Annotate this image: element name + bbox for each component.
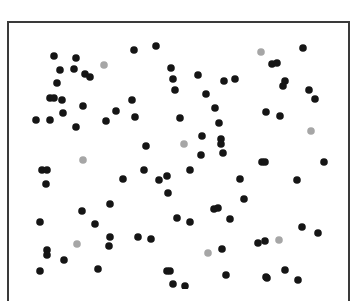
black-dot <box>46 116 54 124</box>
black-dot <box>60 256 68 264</box>
black-dot <box>202 90 210 98</box>
black-dot <box>226 215 234 223</box>
black-dot <box>163 172 171 180</box>
black-dot <box>58 96 66 104</box>
black-dot <box>128 96 136 104</box>
black-dot <box>236 175 244 183</box>
black-dot <box>311 95 319 103</box>
black-dot <box>276 112 284 120</box>
black-dot <box>293 176 301 184</box>
black-dot <box>281 266 289 274</box>
gray-dot <box>275 236 283 244</box>
black-dot <box>36 218 44 226</box>
black-dot <box>78 207 86 215</box>
black-dot <box>167 64 175 72</box>
black-dot <box>169 75 177 83</box>
black-dot <box>164 189 172 197</box>
black-dot <box>197 151 205 159</box>
black-dot <box>131 113 139 121</box>
black-dot <box>91 220 99 228</box>
black-dot <box>220 77 228 85</box>
black-dot <box>217 140 225 148</box>
black-dot <box>106 233 114 241</box>
black-dot <box>263 274 271 282</box>
black-dot <box>79 102 87 110</box>
black-dot <box>169 280 177 288</box>
black-dot <box>112 107 120 115</box>
black-dot <box>50 94 58 102</box>
black-dot <box>181 282 189 289</box>
black-dot <box>299 44 307 52</box>
gray-dot <box>257 48 265 56</box>
black-dot <box>222 271 230 279</box>
black-dot <box>214 204 222 212</box>
black-dot <box>105 242 113 250</box>
black-dot <box>70 65 78 73</box>
black-dot <box>273 59 281 67</box>
black-dot <box>218 245 226 253</box>
black-dot <box>72 54 80 62</box>
black-dot <box>106 200 114 208</box>
black-dot <box>53 79 61 87</box>
black-dot <box>147 235 155 243</box>
black-dot <box>119 175 127 183</box>
black-dot <box>142 142 150 150</box>
black-dot <box>152 42 160 50</box>
black-dot <box>59 109 67 117</box>
gray-dot <box>79 156 87 164</box>
black-dot <box>43 166 51 174</box>
black-dot <box>94 265 102 273</box>
black-dot <box>50 52 58 60</box>
black-dot <box>176 114 184 122</box>
black-dot <box>261 158 269 166</box>
gray-dot <box>100 61 108 69</box>
black-dot <box>130 46 138 54</box>
black-dot <box>240 195 248 203</box>
black-dot <box>42 180 50 188</box>
black-dot <box>219 149 227 157</box>
black-dot <box>43 251 51 259</box>
black-dot <box>261 237 269 245</box>
black-dot <box>72 123 80 131</box>
black-dot <box>211 104 219 112</box>
black-dot <box>102 117 110 125</box>
black-dot <box>215 119 223 127</box>
black-dot <box>36 267 44 275</box>
black-dot <box>314 229 322 237</box>
black-dot <box>198 132 206 140</box>
gray-dot <box>180 140 188 148</box>
black-dot <box>254 239 262 247</box>
black-dot <box>320 158 328 166</box>
gray-dot <box>204 249 212 257</box>
black-dot <box>173 214 181 222</box>
black-dot <box>166 267 174 275</box>
black-dot <box>186 166 194 174</box>
black-dot <box>305 86 313 94</box>
black-dot <box>186 218 194 226</box>
black-dot <box>194 71 202 79</box>
black-dot <box>155 176 163 184</box>
black-dot <box>294 276 302 284</box>
gray-dot <box>73 240 81 248</box>
black-dot <box>140 166 148 174</box>
black-dot <box>32 116 40 124</box>
black-dot <box>86 73 94 81</box>
gray-dot <box>307 127 315 135</box>
black-dot <box>171 86 179 94</box>
black-dot <box>279 82 287 90</box>
black-dot <box>231 75 239 83</box>
black-dot <box>262 108 270 116</box>
black-dot <box>56 66 64 74</box>
black-dot <box>134 233 142 241</box>
black-dot <box>298 223 306 231</box>
